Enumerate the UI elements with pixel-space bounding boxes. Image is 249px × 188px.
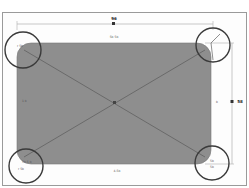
corner-label-bottom-left-primary: 5b 5 b [22,160,32,164]
corner-label-bottom-right-primary: 5b [210,159,214,163]
height-label: 58 [237,99,243,104]
bottom-inner-label: 4-5b [114,169,121,173]
width-label: 96 [111,16,117,21]
left-side-label: 1 b [22,99,27,103]
corner-label-top-left: r 5b [17,44,23,48]
corner-label-bottom-left-secondary: r 5b [18,167,24,171]
width-dimension: 96 [17,16,213,30]
height-dimension-marker [231,100,234,103]
technical-drawing: 96 58 5b 5b 4-5b 1 b b r 5b 5b 5 b r 5b … [0,0,249,188]
right-side-label: b [216,100,218,104]
center-marker [113,101,116,104]
corner-label-bottom-right-secondary: 5b [210,165,214,169]
width-dimension-marker [112,22,115,25]
top-inner-label: 5b 5b [110,35,119,39]
